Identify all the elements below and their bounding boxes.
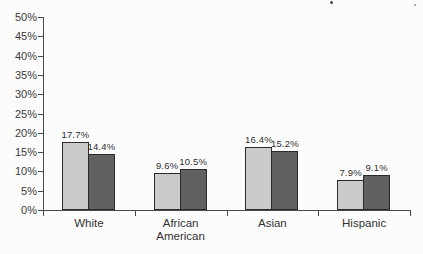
y-axis-tick-label: 40% [0, 50, 37, 62]
y-axis-tick-label: 5% [0, 185, 37, 197]
category-label: African American [144, 217, 218, 243]
y-axis-tick-label: 20% [0, 127, 37, 139]
y-axis-tick-label: 35% [0, 69, 37, 81]
category-label: White [52, 217, 126, 230]
y-axis-tick [38, 36, 43, 37]
y-axis-tick [38, 56, 43, 57]
y-axis-tick-label: 10% [0, 165, 37, 177]
y-axis-tick-label: 50% [0, 11, 37, 23]
x-axis-tick [227, 211, 228, 216]
y-axis-tick [38, 75, 43, 76]
y-axis-tick-label: 25% [0, 108, 37, 120]
x-axis-tick [318, 211, 319, 216]
dark-gray-series-bar [180, 169, 207, 210]
y-axis-tick [38, 94, 43, 95]
bar-value-label: 9.1% [352, 162, 402, 173]
y-axis-tick-label: 30% [0, 88, 37, 100]
light-gray-series-bar [337, 180, 364, 210]
plot-area: 0%5%10%15%20%25%30%35%40%45%50%17.7%14.4… [0, 0, 423, 254]
category-label: Hispanic [327, 217, 401, 230]
dark-gray-series-bar [88, 154, 115, 210]
x-axis-tick [410, 211, 411, 216]
bar-value-label: 14.4% [76, 141, 126, 152]
y-axis-tick [38, 133, 43, 134]
y-axis-tick-label: 15% [0, 146, 37, 158]
y-axis-tick [38, 17, 43, 18]
light-gray-series-bar [154, 173, 181, 210]
y-axis [43, 17, 44, 211]
y-axis-tick-label: 0% [0, 204, 37, 216]
bar-value-label: 10.5% [168, 156, 218, 167]
light-gray-series-bar [245, 147, 272, 210]
bar-value-label: 15.2% [260, 138, 310, 149]
x-axis-tick [43, 211, 44, 216]
bar-value-label: 17.7% [50, 129, 100, 140]
y-axis-tick [38, 114, 43, 115]
dark-gray-series-bar [363, 175, 390, 210]
y-axis-tick-label: 45% [0, 30, 37, 42]
dark-gray-series-bar [271, 151, 298, 210]
x-axis-tick [135, 211, 136, 216]
y-axis-tick [38, 152, 43, 153]
category-label: Asian [235, 217, 309, 230]
y-axis-tick [38, 191, 43, 192]
bar-chart: 0%5%10%15%20%25%30%35%40%45%50%17.7%14.4… [0, 0, 423, 254]
y-axis-tick [38, 171, 43, 172]
